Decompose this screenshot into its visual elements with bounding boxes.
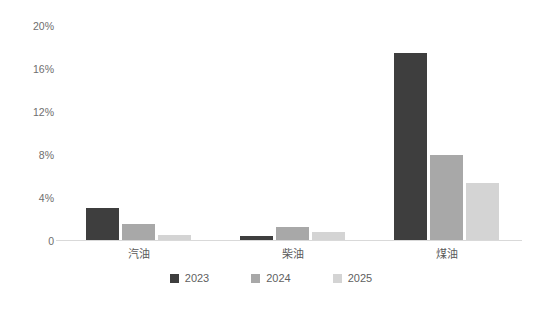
x-axis-line [56, 240, 522, 241]
legend-swatch-icon [333, 274, 342, 283]
legend-item-2025[interactable]: 2025 [333, 273, 372, 284]
bar-group-bars [216, 26, 370, 241]
y-axis-tick-label: 20% [33, 21, 54, 32]
x-axis-category-label: 煤油 [370, 249, 524, 260]
bar-2024-汽油[interactable] [122, 224, 155, 241]
bar-2024-煤油[interactable] [430, 155, 463, 241]
legend-swatch-icon [170, 274, 179, 283]
bar-2023-煤油[interactable] [394, 53, 427, 241]
chart-legend: 202320242025 [0, 273, 542, 284]
y-axis-tick-label: 0 [48, 236, 54, 247]
bar-2023-汽油[interactable] [86, 208, 119, 241]
bar-chart: 20%16%12%8%4%0 汽油柴油煤油 202320242025 [0, 0, 542, 313]
y-axis-tick-label: 8% [39, 150, 54, 161]
bar-2024-柴油[interactable] [276, 227, 309, 241]
x-axis-category-label: 汽油 [62, 249, 216, 260]
legend-item-2023[interactable]: 2023 [170, 273, 209, 284]
y-axis-tick-label: 12% [33, 107, 54, 118]
bar-group: 汽油 [62, 26, 216, 241]
x-axis-category-label: 柴油 [216, 249, 370, 260]
bar-2025-煤油[interactable] [466, 183, 499, 241]
bar-group: 煤油 [370, 26, 524, 241]
legend-item-2024[interactable]: 2024 [251, 273, 290, 284]
legend-label: 2024 [266, 273, 290, 284]
legend-label: 2023 [185, 273, 209, 284]
legend-swatch-icon [251, 274, 260, 283]
bar-group-bars [62, 26, 216, 241]
plot-area: 20%16%12%8%4%0 汽油柴油煤油 [62, 26, 524, 241]
y-axis-tick-label: 16% [33, 64, 54, 75]
y-axis-tick-label: 4% [39, 193, 54, 204]
bar-group: 柴油 [216, 26, 370, 241]
legend-label: 2025 [348, 273, 372, 284]
bar-group-bars [370, 26, 524, 241]
